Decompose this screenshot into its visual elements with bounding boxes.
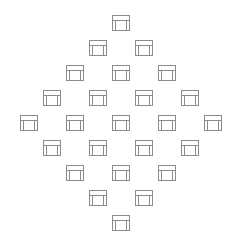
stool-icon	[110, 112, 132, 134]
stool-icon	[179, 87, 201, 109]
stool-icon	[87, 37, 109, 59]
stool-glyph	[133, 187, 155, 209]
stool-icon	[64, 62, 86, 84]
stool-glyph	[110, 112, 132, 134]
stool-icon	[133, 137, 155, 159]
stool-glyph	[179, 87, 201, 109]
stool-glyph	[64, 112, 86, 134]
stool-icon	[87, 137, 109, 159]
stool-glyph	[110, 212, 132, 234]
stool-icon	[156, 112, 178, 134]
stool-glyph	[41, 137, 63, 159]
stool-glyph	[64, 62, 86, 84]
stool-icon	[110, 162, 132, 184]
stool-glyph	[41, 87, 63, 109]
stool-glyph	[110, 12, 132, 34]
stool-icon	[133, 87, 155, 109]
stool-glyph	[133, 87, 155, 109]
stool-icon	[110, 12, 132, 34]
stool-icon	[64, 112, 86, 134]
stool-glyph	[156, 62, 178, 84]
stool-icon	[41, 87, 63, 109]
stool-icon	[64, 162, 86, 184]
stool-icon	[18, 112, 40, 134]
stool-icon	[202, 112, 224, 134]
stool-icon	[87, 87, 109, 109]
stool-glyph	[87, 37, 109, 59]
stool-glyph	[156, 112, 178, 134]
stool-icon	[133, 187, 155, 209]
stool-icon	[110, 62, 132, 84]
stool-icon	[179, 137, 201, 159]
stool-icon	[156, 162, 178, 184]
stool-glyph	[110, 162, 132, 184]
stool-glyph	[64, 162, 86, 184]
stool-glyph	[179, 137, 201, 159]
stool-glyph	[156, 162, 178, 184]
stool-glyph	[87, 137, 109, 159]
stool-icon	[133, 37, 155, 59]
stool-glyph	[87, 187, 109, 209]
stool-glyph	[18, 112, 40, 134]
stool-glyph	[202, 112, 224, 134]
stool-icon	[156, 62, 178, 84]
stool-glyph	[87, 87, 109, 109]
stool-icon	[41, 137, 63, 159]
icon-grid-canvas	[0, 0, 240, 243]
stool-glyph	[133, 137, 155, 159]
stool-glyph	[110, 62, 132, 84]
stool-glyph	[133, 37, 155, 59]
stool-icon	[110, 212, 132, 234]
stool-icon	[87, 187, 109, 209]
